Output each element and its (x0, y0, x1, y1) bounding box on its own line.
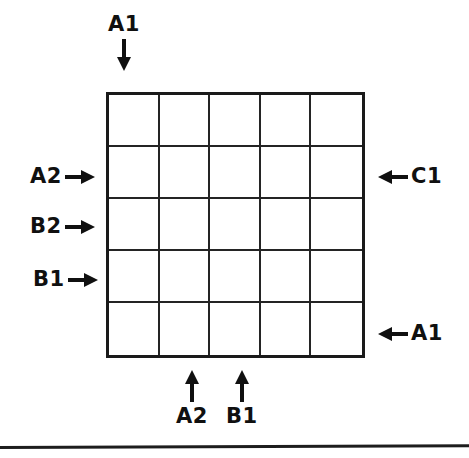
grid-cell (210, 199, 261, 251)
grid-cell (109, 251, 160, 303)
grid-cell (261, 251, 312, 303)
grid-cell (311, 199, 362, 251)
grid-table (106, 92, 365, 358)
grid-cell (109, 303, 160, 355)
grid-cell (109, 147, 160, 199)
left-arrow-icon (378, 170, 408, 184)
grid-cell (311, 95, 362, 147)
grid-cell (261, 303, 312, 355)
annotation-label: A1 (108, 14, 140, 35)
grid-cell (311, 303, 362, 355)
annotation-bottom-b1: B1 (226, 370, 258, 427)
annotation-label: A1 (411, 323, 443, 344)
annotation-right-c1: C1 (378, 166, 442, 187)
grid-cell (109, 95, 160, 147)
annotation-left-b1: B1 (33, 269, 98, 290)
grid-cell (160, 199, 211, 251)
figure-canvas: A1 A2 B2 B1 C1 A1 (0, 0, 469, 458)
grid-cell (311, 147, 362, 199)
grid-cell (210, 303, 261, 355)
annotation-left-b2: B2 (30, 216, 95, 237)
annotation-left-a2: A2 (30, 166, 95, 187)
annotation-label: B2 (30, 216, 62, 237)
grid-cell (210, 147, 261, 199)
grid-cell (261, 147, 312, 199)
grid-cell (160, 147, 211, 199)
grid-cell (261, 199, 312, 251)
grid-cell (109, 199, 160, 251)
right-arrow-icon (68, 273, 98, 287)
grid-cell (160, 303, 211, 355)
grid-cell (261, 95, 312, 147)
grid-cell (311, 251, 362, 303)
up-arrow-icon (185, 370, 199, 402)
up-arrow-icon (235, 370, 249, 402)
left-arrow-icon (378, 327, 408, 341)
grid-cell (160, 95, 211, 147)
annotation-bottom-a2: A2 (176, 370, 208, 427)
down-arrow-icon (117, 39, 131, 71)
annotation-label: A2 (30, 166, 62, 187)
annotation-right-a1: A1 (378, 323, 443, 344)
annotation-label: B1 (226, 406, 258, 427)
annotation-label: B1 (33, 269, 65, 290)
right-arrow-icon (65, 220, 95, 234)
horizontal-rule (0, 444, 469, 449)
grid-cell (160, 251, 211, 303)
grid-cell (210, 95, 261, 147)
annotation-label: A2 (176, 406, 208, 427)
right-arrow-icon (65, 170, 95, 184)
grid-cell (210, 251, 261, 303)
annotation-top-a1: A1 (108, 14, 140, 71)
annotation-label: C1 (411, 166, 442, 187)
